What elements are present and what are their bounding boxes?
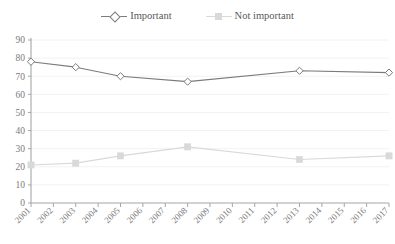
square-filled-marker — [73, 160, 79, 166]
legend-item-important[interactable]: Important — [101, 11, 171, 22]
x-axis: 2001200220032004200520062007200820092010… — [13, 203, 391, 225]
y-tick-label: 90 — [16, 35, 26, 45]
x-tick-label: 2004 — [80, 205, 100, 225]
diamond-open-marker — [296, 67, 303, 74]
x-tick-label: 2006 — [124, 205, 144, 225]
chart-canvas: 0102030405060708090 20012002200320042005… — [0, 30, 395, 244]
data-series-group — [27, 58, 392, 168]
square-filled-marker — [117, 153, 123, 159]
x-tick-label: 2010 — [214, 205, 234, 225]
diamond-open-marker — [385, 69, 392, 76]
square-filled-marker — [28, 162, 34, 168]
square-filled-marker — [386, 153, 392, 159]
legend-label-important: Important — [130, 11, 171, 22]
x-tick-label: 2017 — [371, 205, 391, 225]
chart-legend: Important Not important — [0, 8, 395, 24]
x-tick-label: 2005 — [102, 205, 122, 225]
y-tick-label: 30 — [16, 144, 26, 154]
diamond-open-marker — [27, 58, 34, 65]
y-tick-label: 40 — [16, 126, 26, 136]
series-line-important — [31, 62, 389, 82]
y-tick-label: 20 — [16, 162, 26, 172]
y-tick-label: 10 — [16, 180, 26, 190]
diamond-open-marker — [117, 73, 124, 80]
y-tick-label: 70 — [16, 72, 26, 82]
diamond-open-marker — [184, 78, 191, 85]
gridlines — [31, 40, 389, 185]
x-tick-label: 2015 — [326, 205, 346, 225]
series-line-not-important — [31, 147, 389, 165]
square-filled-marker-icon — [206, 11, 232, 22]
x-tick-label: 2011 — [237, 205, 257, 225]
y-tick-label: 80 — [16, 53, 26, 63]
y-tick-label: 60 — [16, 90, 26, 100]
x-tick-label: 2008 — [169, 205, 189, 225]
plot-area: 0102030405060708090 20012002200320042005… — [0, 30, 395, 244]
x-tick-label: 2001 — [13, 205, 33, 225]
x-tick-label: 2009 — [192, 205, 212, 225]
diamond-open-marker-icon — [101, 11, 127, 22]
x-tick-label: 2002 — [35, 205, 55, 225]
square-filled-marker — [296, 156, 302, 162]
x-tick-label: 2014 — [303, 205, 323, 225]
x-tick-label: 2013 — [281, 205, 301, 225]
x-tick-label: 2003 — [57, 205, 77, 225]
y-tick-label: 50 — [16, 108, 26, 118]
x-tick-label: 2012 — [259, 205, 279, 225]
legend-label-not-important: Not important — [235, 11, 294, 22]
square-filled-marker — [185, 144, 191, 150]
x-tick-label: 2007 — [147, 205, 167, 225]
legend-item-not-important[interactable]: Not important — [206, 11, 294, 22]
line-chart: Important Not important 0102030405060708… — [0, 0, 395, 244]
x-tick-label: 2016 — [348, 205, 368, 225]
diamond-open-marker — [72, 64, 79, 71]
